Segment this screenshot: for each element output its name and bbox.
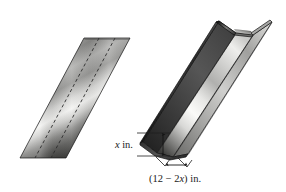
- width-dimension: (12 − 2x) in.: [149, 157, 201, 185]
- flat-sheet-brushed-overlay: [20, 38, 130, 158]
- flat-sheet-panel: [20, 38, 130, 158]
- width-dimension-label: (12 − 2x) in.: [149, 173, 201, 185]
- width-constant: 12: [153, 173, 164, 184]
- height-unit: in.: [122, 139, 133, 150]
- width-unit: in.: [190, 173, 201, 184]
- height-dimension-label: x in.: [114, 139, 133, 150]
- width-leader-right: [178, 158, 187, 167]
- figure-container: x in. (12 − 2x) in.: [0, 0, 286, 192]
- width-leader-right-upper: [187, 160, 192, 167]
- gutter-figure-svg: x in. (12 − 2x) in.: [0, 0, 286, 192]
- folded-gutter-panel: [140, 20, 272, 160]
